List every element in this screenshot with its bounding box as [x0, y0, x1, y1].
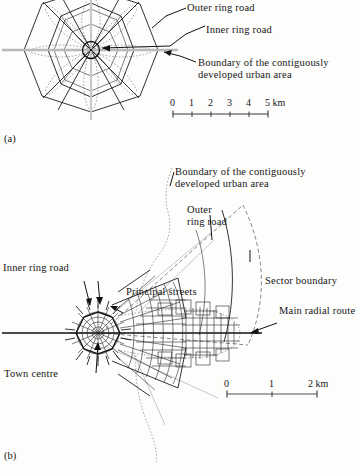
label-urban-boundary-a-line2: developed urban area: [198, 69, 292, 82]
label-town-centre: Town centre: [4, 368, 58, 381]
label-outer-ring-road-a: Outer ring road: [187, 2, 255, 15]
label-inner-ring-road-b: Inner ring road: [3, 262, 69, 275]
scale-tick-b-0: 0: [224, 378, 229, 389]
panel-b-construction-lines: [105, 232, 218, 425]
label-urban-boundary-b-line1: Boundary of the contiguously: [175, 166, 306, 179]
label-urban-boundary-b-line2: developed urban area: [175, 178, 269, 191]
panel-a-scale-bar: [173, 111, 268, 118]
panel-b-graphics: [2, 168, 317, 462]
panel-id-a: (a): [4, 133, 16, 144]
label-outer-ring-road-b-line2: ring road: [187, 216, 227, 229]
scale-tick-a-2: 2: [208, 97, 213, 108]
scale-tick-a-3: 3: [227, 97, 232, 108]
figure-graphics: [0, 0, 359, 473]
scale-tick-a-0: 0: [170, 97, 175, 108]
label-urban-boundary-a-line1: Boundary of the contiguously: [198, 57, 329, 70]
panel-id-b: (b): [4, 450, 16, 461]
panel-b-urban-boundary: [118, 168, 240, 462]
panel-b-town-centre: [70, 305, 126, 361]
label-principal-streets: Principal streets: [126, 286, 197, 299]
scale-tick-b-1: 1: [269, 378, 274, 389]
panel-b-outer-ring-road: [222, 210, 232, 342]
panel-a-leaders: [102, 8, 205, 62]
scale-tick-a-4: 4: [246, 97, 251, 108]
panel-b-outer-ring-road-secondary: [196, 230, 205, 335]
panel-b-scale-bar: [227, 391, 317, 398]
scale-tick-a-5-km: 5 km: [265, 97, 285, 108]
label-main-radial-route: Main radial route: [279, 305, 355, 318]
figure-page: Outer ring road Inner ring road Boundary…: [0, 0, 359, 473]
label-outer-ring-road-b-line1: Outer: [187, 204, 212, 217]
scale-tick-b-2-km: 2 km: [308, 378, 328, 389]
panel-a-town-centre-dot: [90, 49, 93, 52]
label-sector-boundary: Sector boundary: [265, 275, 337, 288]
label-inner-ring-road-a: Inner ring road: [206, 24, 272, 37]
scale-tick-a-1: 1: [189, 97, 194, 108]
